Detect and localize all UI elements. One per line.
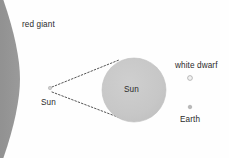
sun-actual-dot: [48, 86, 51, 89]
label-red-giant: red giant: [22, 21, 55, 29]
red-giant-shape: [0, 0, 20, 158]
stellar-size-diagram: red giant Sun Sun white dwarf Earth: [0, 0, 229, 158]
label-sun-actual: Sun: [41, 99, 56, 107]
label-white-dwarf: white dwarf: [175, 62, 218, 70]
label-earth: Earth: [180, 116, 200, 124]
label-sun-magnified: Sun: [124, 86, 139, 94]
white-dwarf-dot: [188, 76, 193, 81]
earth-dot: [188, 105, 192, 109]
